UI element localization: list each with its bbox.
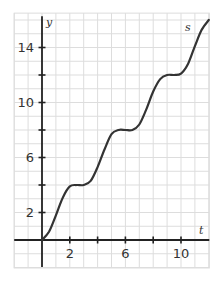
x-axis-label: t: [199, 224, 204, 237]
chart: 2610261014 t y s: [0, 0, 222, 282]
x-tick-label: 2: [66, 246, 74, 261]
y-axis-label: y: [45, 16, 53, 29]
y-tick-label: 2: [26, 205, 34, 220]
y-tick-label: 6: [26, 150, 34, 165]
y-tick-label: 14: [17, 40, 34, 55]
y-tick-label: 10: [17, 95, 34, 110]
x-tick-label: 6: [121, 246, 129, 261]
x-tick-label: 10: [173, 246, 190, 261]
axis-ticks: [39, 48, 182, 244]
grid-lines: [14, 13, 209, 268]
curve-label: s: [185, 21, 191, 34]
